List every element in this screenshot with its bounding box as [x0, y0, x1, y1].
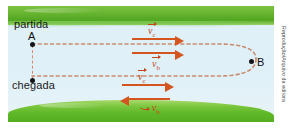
vector-label-current-bottom: vc [138, 70, 146, 85]
image-credit-text: Reprodução/Arquivo da editora [281, 26, 287, 102]
vector-label-boat-top-sub: b [156, 64, 160, 72]
vector-label-current-top: vc [148, 24, 156, 39]
point-finish-marker [30, 78, 35, 83]
connector-line-a-to-finish [32, 45, 33, 79]
label-point-b: B [257, 56, 264, 68]
vector-label-current-top-sub: c [152, 31, 155, 39]
point-a-marker [30, 42, 35, 47]
label-point-a: A [28, 30, 35, 42]
figure-root: partida chegada A B vc vb vc - vb Reprod… [0, 0, 290, 128]
point-b-marker [249, 59, 254, 64]
vector-label-boat-bottom-sub: b [156, 108, 160, 116]
vector-label-current-bottom-sub: c [142, 77, 145, 85]
vector-arrow-boat-top [132, 52, 176, 54]
vector-label-boat-top: vb [152, 57, 160, 72]
vector-label-boat-bottom-sign: - [140, 102, 143, 113]
image-credit: Reprodução/Arquivo da editora [278, 0, 290, 128]
vector-arrow-boat-bottom [128, 98, 170, 100]
label-start: partida [14, 18, 48, 30]
riverbank-bottom-highlight [40, 103, 109, 108]
vector-label-boat-bottom: - vb [140, 103, 160, 116]
